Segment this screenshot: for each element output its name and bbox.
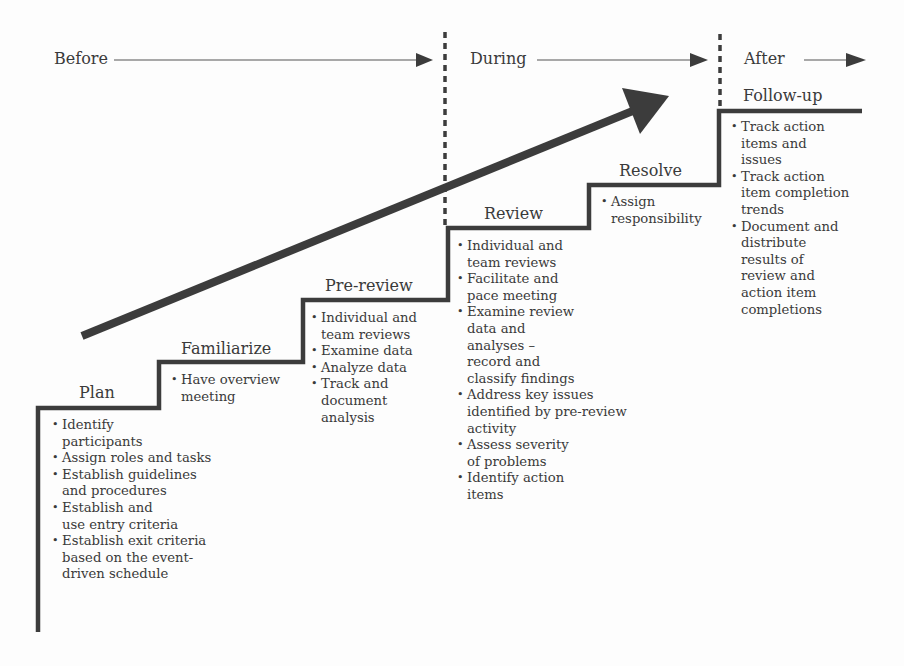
step-title-follow-up: Follow-up xyxy=(743,87,822,105)
phase-arrow-during xyxy=(537,53,708,67)
list-item: Establish exit criteria based on the eve… xyxy=(52,533,211,583)
list-item: Analyze data xyxy=(311,360,417,377)
step-title-plan: Plan xyxy=(79,384,115,402)
list-item: Examine review data and analyses – recor… xyxy=(457,304,627,387)
phase-arrow-after xyxy=(804,53,866,67)
step-list-review: Individual and team reviews Facilitate a… xyxy=(457,238,627,504)
phase-label-before: Before xyxy=(54,50,108,68)
list-item: Track and document analysis xyxy=(311,376,417,426)
step-list-resolve: Assign responsibility xyxy=(601,194,702,227)
list-item: Assign roles and tasks xyxy=(52,450,211,467)
list-item: Track action item completion trends xyxy=(731,169,849,219)
list-item: Individual and team reviews xyxy=(457,238,627,271)
list-item: Assign responsibility xyxy=(601,194,702,227)
step-title-resolve: Resolve xyxy=(619,162,682,180)
list-item: Track action items and issues xyxy=(731,119,849,169)
phase-arrow-before xyxy=(114,53,433,67)
phase-label-after: After xyxy=(744,50,785,68)
step-list-plan: Identify participants Assign roles and t… xyxy=(52,417,211,583)
list-item: Document and distribute results of revie… xyxy=(731,219,849,319)
step-title-pre-review: Pre-review xyxy=(325,277,413,295)
list-item: Assess severity of problems xyxy=(457,437,627,470)
list-item: Examine data xyxy=(311,343,417,360)
list-item: Have overview meeting xyxy=(171,372,280,405)
step-list-familiarize: Have overview meeting xyxy=(171,372,280,405)
step-list-follow-up: Track action items and issues Track acti… xyxy=(731,119,849,318)
list-item: Establish and use entry criteria xyxy=(52,500,211,533)
list-item: Identify action items xyxy=(457,470,627,503)
list-item: Address key issues identified by pre-rev… xyxy=(457,387,627,437)
list-item: Facilitate and pace meeting xyxy=(457,271,627,304)
step-title-familiarize: Familiarize xyxy=(181,340,271,358)
step-title-review: Review xyxy=(484,205,543,223)
phase-label-during: During xyxy=(470,50,526,68)
list-item: Individual and team reviews xyxy=(311,310,417,343)
list-item: Identify participants xyxy=(52,417,211,450)
step-list-pre-review: Individual and team reviews Examine data… xyxy=(311,310,417,426)
list-item: Establish guidelines and procedures xyxy=(52,467,211,500)
